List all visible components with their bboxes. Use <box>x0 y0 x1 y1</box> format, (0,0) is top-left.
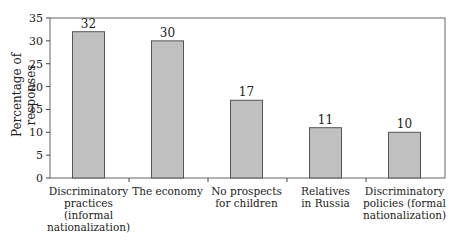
x-tick-label-line: practices <box>44 197 134 209</box>
y-tick-label: 0 <box>36 172 43 185</box>
data-label: 17 <box>239 85 254 99</box>
bar <box>152 41 184 178</box>
y-tick-label: 35 <box>29 12 43 25</box>
y-axis-label: Percentage of responses <box>10 40 24 150</box>
x-tick-label: Discriminatorypractices(informalnational… <box>44 185 134 233</box>
data-label: 10 <box>397 117 412 131</box>
bar <box>73 32 105 178</box>
data-label: 32 <box>81 17 96 31</box>
x-tick-label-line: policies (formal <box>360 197 450 209</box>
x-tick-label-line: nationalization) <box>44 221 134 233</box>
data-label: 30 <box>160 26 175 40</box>
x-tick-label-line: for children <box>202 197 292 209</box>
x-tick-label: Relativesin Russia <box>281 185 371 209</box>
y-tick-label: 5 <box>36 149 43 162</box>
x-tick-label-line: nationalization) <box>360 209 450 221</box>
x-tick-label: The economy <box>123 185 213 197</box>
data-label: 11 <box>318 113 333 127</box>
y-tick-label: 10 <box>29 126 43 139</box>
bar <box>310 128 342 178</box>
x-tick-label-line: The economy <box>123 185 213 197</box>
x-tick-label-line: Discriminatory <box>44 185 134 197</box>
y-tick-label: 30 <box>29 35 43 48</box>
bar <box>389 132 421 178</box>
x-tick-label: No prospectsfor children <box>202 185 292 209</box>
bar <box>231 100 263 178</box>
x-tick-label-line: No prospects <box>202 185 292 197</box>
x-tick-label-line: Relatives <box>281 185 371 197</box>
x-tick-label-line: in Russia <box>281 197 371 209</box>
x-tick-label: Discriminatorypolicies (formalnationaliz… <box>360 185 450 221</box>
x-tick-label-line: (informal <box>44 209 134 221</box>
x-tick-label-line: Discriminatory <box>360 185 450 197</box>
bar-chart: 051015202530353230171110 Percentage of r… <box>0 0 464 247</box>
